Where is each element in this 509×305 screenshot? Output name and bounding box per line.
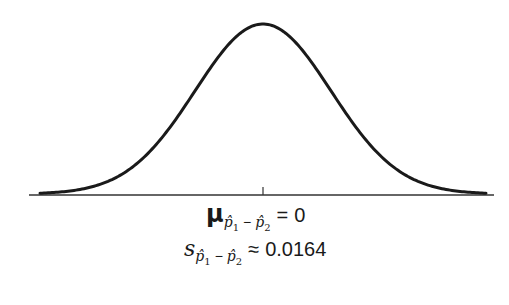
bell-curve — [40, 24, 486, 193]
standard-error-label: sp̂1−p̂2≈0.0164 — [184, 236, 326, 261]
s-symbol: s — [184, 236, 195, 261]
sd-subscript: p̂1−p̂2 — [195, 248, 242, 264]
mean-relation: = — [277, 204, 289, 226]
mean-subscript: p̂1−p̂2 — [224, 214, 271, 230]
mean-value: 0 — [294, 204, 305, 226]
mu-symbol: μ — [206, 200, 224, 228]
sd-relation: ≈ — [248, 238, 259, 260]
mean-label: μp̂1−p̂2=0 — [206, 200, 305, 228]
sd-value: 0.0164 — [265, 238, 326, 260]
